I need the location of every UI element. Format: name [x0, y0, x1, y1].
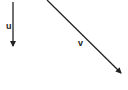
vector-v-label: v	[78, 39, 83, 48]
vector-u-label: u	[6, 22, 12, 31]
vector-diagram	[0, 0, 128, 90]
vector-v-arrow	[47, 0, 121, 73]
vector-v	[47, 0, 121, 73]
